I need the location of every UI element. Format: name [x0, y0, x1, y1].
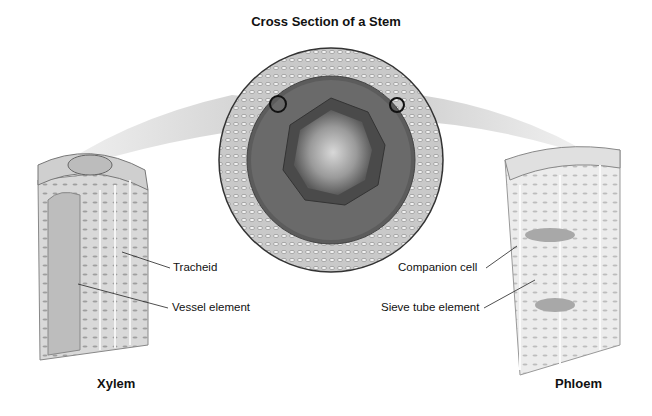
- caption-phloem: Phloem: [555, 376, 602, 391]
- label-companion-cell: Companion cell: [398, 261, 477, 273]
- caption-xylem: Xylem: [97, 376, 135, 391]
- stem-cross-section: [219, 48, 443, 272]
- label-vessel-element: Vessel element: [172, 301, 250, 313]
- diagram-artwork: [0, 0, 652, 416]
- label-sieve-tube-element: Sieve tube element: [381, 301, 479, 313]
- label-tracheid: Tracheid: [173, 261, 217, 273]
- phloem-illustration: [484, 147, 620, 375]
- xylem-illustration: [38, 154, 170, 360]
- diagram-title: Cross Section of a Stem: [0, 14, 652, 29]
